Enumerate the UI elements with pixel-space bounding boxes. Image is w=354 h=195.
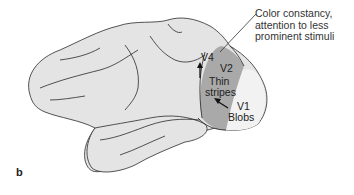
label-v4: V4 (201, 52, 214, 63)
annotation-line-3: prominent stimuli (255, 31, 334, 43)
annotation-leader (220, 14, 256, 52)
label-v2: V2 (220, 63, 233, 74)
panel-label: b (16, 166, 23, 178)
annotation-text: Color constancy, attention to less promi… (255, 8, 334, 43)
label-blobs: Blobs (228, 112, 254, 123)
label-thin-stripes-2: stripes (205, 87, 236, 98)
annotation-line-1: Color constancy, (255, 8, 334, 20)
brain-diagram: Color constancy, attention to less promi… (0, 0, 354, 195)
